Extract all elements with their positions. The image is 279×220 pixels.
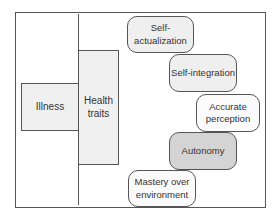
- health-traits-label: Health traits: [81, 95, 117, 120]
- trait-label: Self-integration: [171, 67, 235, 79]
- trait-label: Mastery over environment: [131, 176, 193, 201]
- illness-box: Illness: [21, 83, 79, 131]
- trait-autonomy: Autonomy: [169, 132, 237, 170]
- trait-label: Autonomy: [182, 145, 225, 157]
- trait-self-actualization: Self-actualization: [127, 16, 194, 53]
- health-traits-box: Health traits: [78, 50, 119, 165]
- trait-self-integration: Self-integration: [169, 54, 237, 92]
- trait-mastery-over-environment: Mastery over environment: [128, 170, 196, 207]
- trait-label: Accurate perception: [203, 101, 253, 126]
- illness-label: Illness: [36, 101, 64, 114]
- trait-accurate-perception: Accurate perception: [196, 94, 260, 132]
- trait-label: Self-actualization: [128, 22, 193, 47]
